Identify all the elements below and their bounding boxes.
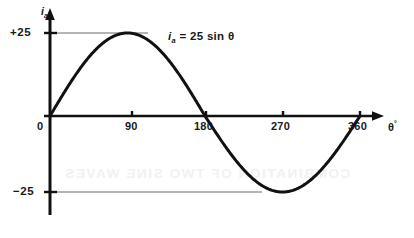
positive-amplitude-label: +25: [10, 27, 31, 39]
sine-wave-figure: COMBINATION OF TWO SINE WAVES ia +25 −25…: [0, 0, 414, 238]
x-tick-label-270: 270: [271, 121, 290, 132]
x-tick-label-360: 360: [348, 121, 367, 132]
x-axis-title: θ°: [388, 120, 397, 133]
equation-annotation: ia = 25 sin θ: [168, 31, 234, 45]
x-axis-arrowhead: [372, 111, 384, 121]
origin-label: 0: [37, 121, 43, 132]
x-tick-label-90: 90: [125, 121, 138, 132]
equation-variable-subscript: a: [172, 36, 176, 45]
negative-amplitude-label: −25: [13, 186, 34, 198]
equation-expression: = 25 sin θ: [179, 30, 234, 42]
y-axis-title-subscript: a: [44, 12, 48, 19]
x-axis-title-degree-sign: °: [394, 120, 397, 127]
y-axis-title: ia: [41, 6, 48, 19]
x-tick-label-180: 180: [194, 121, 213, 132]
